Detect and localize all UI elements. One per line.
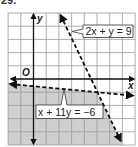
label-x-plus-11y-eq-neg6: x + 11y = −6 — [38, 106, 95, 118]
inequality-graph: y x O 2x + y = 9 x + 11y = −6 — [0, 0, 138, 147]
y-axis-label: y — [36, 13, 43, 24]
x-axis-label: x — [127, 80, 134, 91]
origin-label: O — [22, 67, 30, 78]
label-callout-2x-plus-y-eq-9: 2x + y = 9 — [72, 25, 133, 38]
label-2x-plus-y-eq-9: 2x + y = 9 — [86, 25, 132, 37]
